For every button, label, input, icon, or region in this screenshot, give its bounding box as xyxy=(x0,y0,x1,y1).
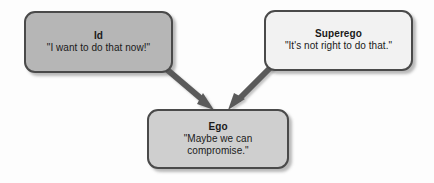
node-id-title: Id xyxy=(94,30,103,42)
arrow-id-to-ego xyxy=(164,67,214,110)
node-ego[interactable]: Ego "Maybe we can compromise." xyxy=(147,109,289,169)
node-ego-title: Ego xyxy=(208,121,227,133)
arrow-superego-to-ego xyxy=(228,66,272,110)
diagram-canvas: Id "I want to do that now!" Superego "It… xyxy=(0,0,434,183)
node-id-quote: "I want to do that now!" xyxy=(47,42,150,55)
node-superego-title: Superego xyxy=(315,28,362,40)
node-superego[interactable]: Superego "It's not right to do that." xyxy=(264,10,413,71)
node-id[interactable]: Id "I want to do that now!" xyxy=(24,11,173,73)
node-superego-quote: "It's not right to do that." xyxy=(285,40,392,53)
node-ego-quote: "Maybe we can compromise." xyxy=(184,133,253,158)
